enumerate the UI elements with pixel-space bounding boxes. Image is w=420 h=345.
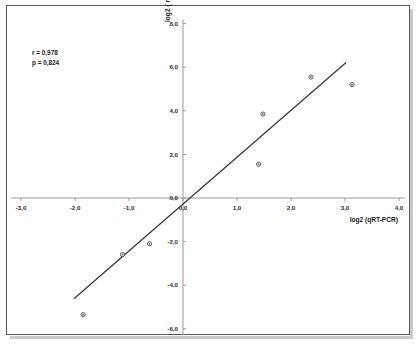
x-tick-label: 4,0: [395, 204, 404, 211]
x-tick-label: -3,0: [16, 204, 27, 211]
correlation-annotation: r = 0,978: [32, 49, 58, 57]
data-point-core: [82, 314, 84, 316]
data-point-core: [149, 243, 151, 245]
trend-line-group: [74, 62, 346, 298]
x-tick-label: 0,0: [179, 204, 188, 211]
pvalue-annotation: p = 0,824: [32, 59, 60, 67]
x-tick-label: 1,0: [233, 204, 242, 211]
y-tick-label: 0,0: [169, 194, 178, 201]
x-tick-label: -1,0: [124, 204, 135, 211]
plot-area: -3,0-2,0-1,00,01,02,03,04,08,06,04,02,00…: [0, 0, 420, 345]
trend-line: [74, 62, 346, 298]
axes-group: [11, 20, 405, 335]
data-point-core: [310, 76, 312, 78]
x-tick-label: 3,0: [341, 204, 350, 211]
data-points-group: [81, 75, 354, 317]
figure-container: -3,0-2,0-1,00,01,02,03,04,08,06,04,02,00…: [0, 0, 420, 345]
data-point-core: [351, 84, 353, 86]
data-point-core: [258, 163, 260, 165]
y-tick-label: 4,0: [169, 107, 178, 114]
y-tick-label: -2,0: [167, 238, 178, 245]
data-point-core: [262, 113, 264, 115]
tick-labels-group: -3,0-2,0-1,00,01,02,03,04,08,06,04,02,00…: [16, 20, 404, 332]
ticks-group: [21, 24, 399, 329]
scatter-chart: -3,0-2,0-1,00,01,02,03,04,08,06,04,02,00…: [0, 0, 420, 345]
x-tick-label: 2,0: [287, 204, 296, 211]
y-tick-label: -6,0: [167, 325, 178, 332]
y-tick-label: -4,0: [167, 281, 178, 288]
y-tick-label: 2,0: [169, 151, 178, 158]
x-axis-title: log2 (qRT-PCR): [350, 216, 398, 224]
x-tick-label: -2,0: [70, 204, 81, 211]
data-point-core: [122, 254, 124, 256]
y-axis-title: log2 ( microarray): [164, 0, 172, 22]
y-tick-label: 6,0: [169, 63, 178, 70]
